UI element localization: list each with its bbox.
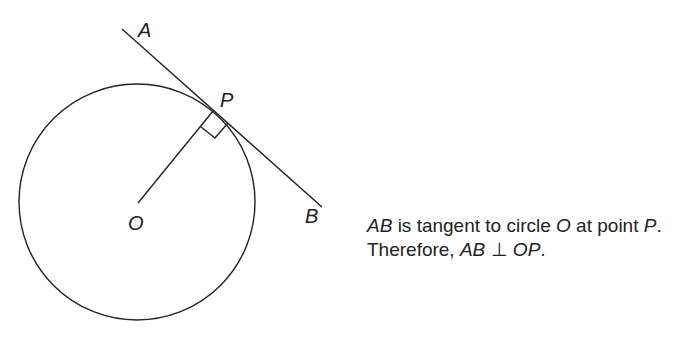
caption-o: O [556,215,571,236]
radius-op [138,111,213,203]
caption-op: OP [513,239,540,260]
tangent-diagram: A P O B [0,0,696,341]
caption-text: at point [571,215,644,236]
caption-text: . [656,215,661,236]
caption-line-1: AB is tangent to circle O at point P. [367,214,662,238]
label-b: B [305,205,318,227]
caption-line-2: Therefore, AB ⊥ OP. [367,238,662,262]
caption-ab: AB [367,215,392,236]
caption-p: P [644,215,657,236]
right-angle-mark [201,123,228,138]
caption: AB is tangent to circle O at point P. Th… [367,214,662,262]
caption-text: Therefore, [367,239,460,260]
label-a: A [137,19,151,41]
caption-ab: AB [460,239,485,260]
caption-text: . [540,239,545,260]
circle-o [19,84,255,320]
tangent-line-ab [122,29,322,207]
label-o: O [128,212,144,234]
caption-text: is tangent to circle [392,215,556,236]
label-p: P [220,89,234,111]
perpendicular-symbol: ⊥ [485,239,513,260]
